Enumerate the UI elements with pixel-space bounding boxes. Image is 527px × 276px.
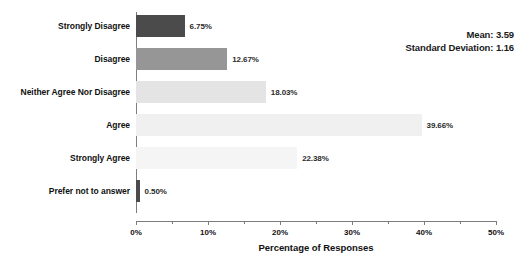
category-label: Disagree bbox=[0, 48, 130, 70]
bar-value-label: 18.03% bbox=[271, 88, 298, 97]
bar bbox=[136, 147, 297, 169]
bar-value-label: 22.38% bbox=[302, 154, 329, 163]
value-axis: 0%10%20%30%40%50% bbox=[136, 221, 496, 222]
x-axis-tick-label: 0% bbox=[130, 228, 142, 237]
bar-value-label: 6.75% bbox=[190, 22, 212, 31]
x-axis-tick-label: 40% bbox=[416, 228, 432, 237]
x-axis-tick-label: 10% bbox=[200, 228, 216, 237]
x-axis-minor-tick bbox=[172, 221, 173, 224]
x-axis-tick bbox=[496, 221, 497, 225]
bar-row: 18.03% bbox=[136, 81, 496, 103]
bar bbox=[136, 180, 140, 202]
x-axis-minor-tick bbox=[316, 221, 317, 224]
bar-row: 39.66% bbox=[136, 114, 496, 136]
bar bbox=[136, 15, 185, 37]
category-label: Strongly Disagree bbox=[0, 15, 130, 37]
x-axis-tick-label: 20% bbox=[272, 228, 288, 237]
x-axis-tick bbox=[424, 221, 425, 225]
plot-area: 6.75% 12.67% 18.03% 39.66% 22.38% 0.50% bbox=[136, 15, 496, 213]
category-label: Prefer not to answer bbox=[0, 180, 130, 202]
x-axis-tick bbox=[136, 221, 137, 225]
x-axis-tick-label: 30% bbox=[344, 228, 360, 237]
x-axis-tick bbox=[280, 221, 281, 225]
x-axis-minor-tick bbox=[388, 221, 389, 224]
bar-value-label: 39.66% bbox=[427, 121, 454, 130]
x-axis-tick bbox=[352, 221, 353, 225]
bar-row: 6.75% bbox=[136, 15, 496, 37]
x-axis-tick bbox=[208, 221, 209, 225]
bar bbox=[136, 48, 227, 70]
x-axis-minor-tick bbox=[244, 221, 245, 224]
bar-value-label: 12.67% bbox=[232, 55, 259, 64]
bar bbox=[136, 114, 422, 136]
category-axis-labels: Strongly Disagree Disagree Neither Agree… bbox=[0, 15, 130, 213]
category-label: Agree bbox=[0, 114, 130, 136]
x-axis-title: Percentage of Responses bbox=[136, 242, 496, 253]
bar-row: 12.67% bbox=[136, 48, 496, 70]
bar-row: 22.38% bbox=[136, 147, 496, 169]
bar-row: 0.50% bbox=[136, 180, 496, 202]
x-axis-tick-label: 50% bbox=[488, 228, 504, 237]
survey-bar-chart: Mean: 3.59 Standard Deviation: 1.16 Stro… bbox=[0, 0, 527, 276]
bar-value-label: 0.50% bbox=[145, 187, 167, 196]
x-axis-minor-tick bbox=[460, 221, 461, 224]
category-label: Neither Agree Nor Disagree bbox=[0, 81, 130, 103]
category-label: Strongly Agree bbox=[0, 147, 130, 169]
bar bbox=[136, 81, 266, 103]
